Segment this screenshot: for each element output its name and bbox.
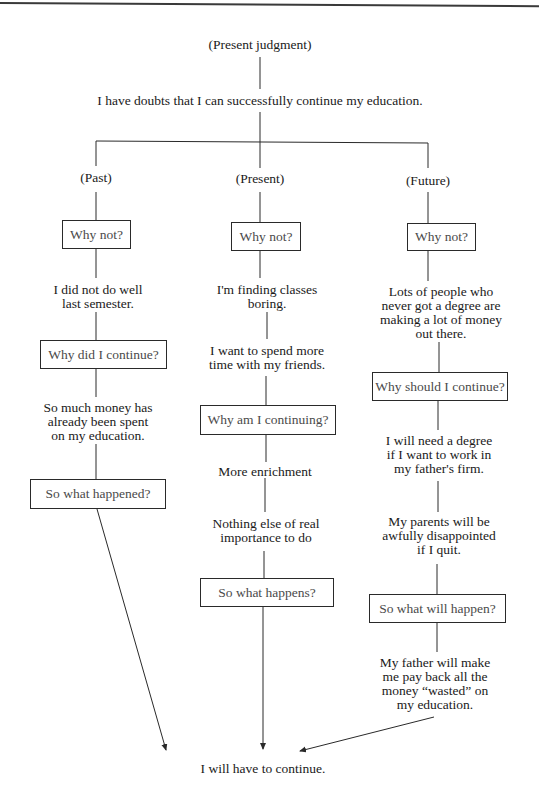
present-what-happens-text: So what happens?	[218, 585, 315, 601]
past-answer-1: I did not do well last semester.	[53, 283, 142, 311]
text-line: already been spent	[43, 415, 152, 429]
past-why-not-box: Why not?	[62, 220, 131, 249]
text-line: making a lot of money	[380, 313, 502, 327]
present-why-continuing-box: Why am I continuing?	[200, 405, 336, 435]
root-statement: I have doubts that I can successfully co…	[97, 94, 422, 108]
present-why-not-text: Why not?	[240, 229, 293, 245]
future-why-not-box: Why not?	[407, 223, 476, 251]
root-label: (Present judgment)	[208, 38, 311, 52]
future-answer-2a: I will need a degree if I want to work i…	[386, 434, 492, 476]
present-answer-1a: I'm finding classes boring.	[217, 283, 318, 311]
text-line: My parents will be	[382, 515, 496, 529]
text-line: time with my friends.	[209, 358, 325, 372]
text-line: out there.	[380, 327, 502, 341]
text-line: I will need a degree	[386, 434, 492, 448]
future-column-label: (Future)	[406, 174, 450, 188]
future-why-should-continue-text: Why should I continue?	[375, 379, 504, 395]
text-line: awfully disappointed	[382, 529, 496, 543]
text-line: So much money has	[43, 401, 152, 415]
present-answer-2a: More enrichment	[218, 465, 311, 479]
conclusion: I will have to continue.	[201, 762, 326, 776]
text-line: on my education.	[43, 429, 152, 443]
present-answer-1b: I want to spend more time with my friend…	[209, 344, 325, 372]
text-line: money “wasted” on	[380, 684, 491, 698]
present-why-continuing-text: Why am I continuing?	[207, 412, 328, 428]
text-line: importance to do	[213, 531, 320, 545]
text-line: boring.	[217, 297, 318, 311]
future-answer-2b: My parents will be awfully disappointed …	[382, 515, 496, 557]
present-answer-2b: Nothing else of real importance to do	[213, 517, 320, 545]
future-answer-1: Lots of people who never got a degree ar…	[380, 285, 502, 341]
text-line: me pay back all the	[380, 670, 491, 684]
text-line: Nothing else of real	[213, 517, 320, 531]
text-line: never got a degree are	[380, 299, 502, 313]
future-why-not-text: Why not?	[415, 229, 468, 245]
past-why-continue-text: Why did I continue?	[48, 347, 159, 363]
future-what-will-happen-box: So what will happen?	[369, 594, 506, 623]
past-what-happened-text: So what happened?	[46, 486, 151, 502]
past-why-not-text: Why not?	[70, 227, 123, 243]
text-line: I'm finding classes	[217, 283, 318, 297]
present-column-label: (Present)	[236, 172, 285, 186]
text-line: my father's firm.	[386, 462, 492, 476]
text-line: last semester.	[53, 297, 142, 311]
past-answer-2: So much money has already been spent on …	[43, 401, 152, 443]
future-answer-3: My father will make me pay back all the …	[380, 656, 491, 712]
text-line: My father will make	[380, 656, 491, 670]
text-line: if I want to work in	[386, 448, 492, 462]
present-what-happens-box: So what happens?	[200, 578, 334, 607]
future-what-will-happen-text: So what will happen?	[379, 601, 496, 617]
future-why-should-continue-box: Why should I continue?	[372, 372, 508, 401]
past-column-label: (Past)	[80, 171, 112, 185]
text-line: I want to spend more	[209, 344, 325, 358]
text-line: I did not do well	[53, 283, 142, 297]
past-what-happened-box: So what happened?	[30, 479, 166, 509]
text-line: if I quit.	[382, 543, 496, 557]
past-why-continue-box: Why did I continue?	[40, 340, 167, 369]
text-line: my education.	[380, 698, 491, 712]
text-line: Lots of people who	[380, 285, 502, 299]
present-why-not-box: Why not?	[231, 222, 301, 251]
